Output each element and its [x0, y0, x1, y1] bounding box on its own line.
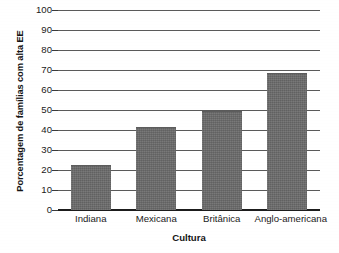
plot-area [58, 10, 320, 210]
y-axis-tick-label: 10 [18, 185, 52, 195]
y-axis-tick-label: 80 [18, 45, 52, 55]
y-axis-tick-label: 50 [18, 105, 52, 115]
bar [202, 111, 242, 210]
x-axis-tick-label: Britânica [189, 212, 255, 226]
bar [136, 127, 176, 210]
x-axis-tick-label: Mexicana [124, 212, 190, 226]
y-axis-tick-label: 20 [18, 165, 52, 175]
y-axis-tick-label: 60 [18, 85, 52, 95]
y-axis-tick-label: 100 [18, 5, 52, 15]
y-axis-tick-label: 30 [18, 145, 52, 155]
y-axis-tick-label: 70 [18, 65, 52, 75]
y-axis-tick-label: 40 [18, 125, 52, 135]
x-axis-tick-label: Anglo-americana [255, 212, 321, 226]
x-axis-title: Cultura [58, 231, 320, 244]
y-axis-tick-label: 90 [18, 25, 52, 35]
y-axis-tick-labels: 0102030405060708090100 [18, 10, 52, 210]
bar-chart-figure: Porcentagem de famílias com alta EE 0102… [0, 0, 339, 253]
x-axis-tick-labels: IndianaMexicanaBritânicaAnglo-americana [44, 212, 336, 228]
bar-series [58, 10, 320, 210]
bar [267, 73, 307, 210]
x-axis-tick-label: Indiana [58, 212, 124, 226]
bar [71, 165, 111, 210]
